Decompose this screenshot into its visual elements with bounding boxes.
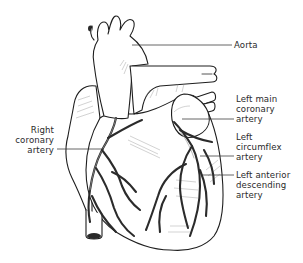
label-aorta: Aorta [234, 40, 258, 50]
label-left-main-coronary-artery: Left main coronary artery [236, 94, 277, 124]
label-right-coronary-artery: Right coronary artery [15, 125, 54, 155]
label-left-circumflex-artery: Left circumflex artery [236, 132, 282, 162]
heart-diagram: Aorta Left main coronary artery Right co… [0, 0, 303, 263]
label-left-anterior-descending-artery: Left anterior descending artery [236, 170, 290, 200]
